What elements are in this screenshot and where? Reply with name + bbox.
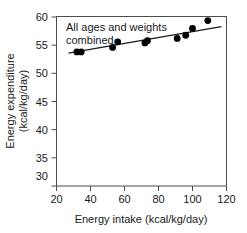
- y-tick-label: 55: [36, 39, 48, 51]
- y-tick-label: 50: [36, 67, 48, 79]
- data-point: [109, 44, 116, 51]
- y-axis-title-line-1: Energy expenditure: [4, 53, 16, 148]
- annotation-line-1: All ages and weights: [66, 21, 167, 33]
- data-point: [182, 32, 189, 39]
- data-point: [144, 37, 151, 44]
- x-tick-label: 20: [50, 193, 62, 205]
- data-point: [114, 38, 121, 45]
- x-tick-label: 60: [118, 193, 130, 205]
- y-tick-label: 35: [36, 152, 48, 164]
- y-tick-label: 30: [36, 170, 48, 182]
- scatter-chart-figure: 60 55 50 45 40 35 30 20 40 60 80 100 120: [0, 0, 247, 233]
- y-tick-label: 40: [36, 124, 48, 136]
- data-point: [78, 49, 85, 56]
- x-tick-label: 80: [152, 193, 164, 205]
- y-tick-label: 60: [36, 11, 48, 23]
- x-tick-label: 100: [183, 193, 201, 205]
- data-point: [174, 35, 181, 42]
- x-tick-label: 120: [217, 193, 235, 205]
- data-point: [204, 17, 211, 24]
- annotation-line-2: combined: [66, 34, 114, 46]
- chart-svg: 60 55 50 45 40 35 30 20 40 60 80 100 120: [0, 0, 247, 233]
- data-point: [189, 25, 196, 32]
- x-axis-title: Energy intake (kcal/kg/day): [75, 213, 208, 225]
- y-tick-label: 45: [36, 96, 48, 108]
- x-tick-label: 40: [84, 193, 96, 205]
- y-axis-title-line-2: (kcal/kg/day): [17, 70, 29, 132]
